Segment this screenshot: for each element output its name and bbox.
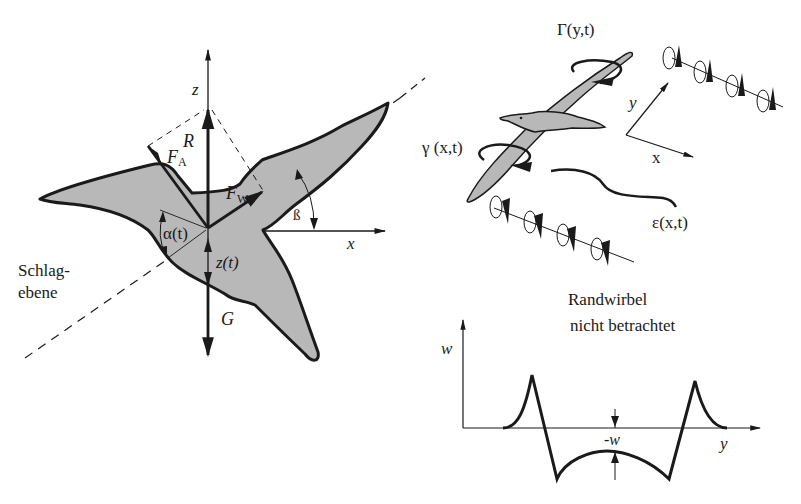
stroke-plane-label-line2: ebene [18,283,58,302]
vortex-3 [726,73,745,97]
dimension-arrow-up [611,452,619,463]
dimension-arrow-down [611,416,619,427]
downwash-distribution-plot: Randwirbel nicht betrachtet w y -w [441,290,760,480]
y-axis-label: y [718,434,728,453]
resultant-label: R [182,131,194,151]
chord-circulation-label: γ (x,t) [421,138,463,157]
z-axis-label: z [191,80,199,99]
left-bird-force-diagram: z x R FA FW α(t) ß z(t) G Schlag- ebene [18,50,400,360]
note-line1: Randwirbel [568,290,648,309]
wake-line [551,170,676,207]
alpha-label: α(t) [163,224,188,243]
bird-eye [520,117,523,120]
albatross-body [500,112,605,132]
alpha-arc-head [160,246,167,258]
vortex-2 [524,211,543,239]
coord-y-label: y [627,93,637,112]
right-vortex-model: Γ(y,t) γ (x,t) ε(x,t) y x [400,20,783,266]
stroke-plane-line-continuation [400,78,425,98]
bound-circulation-label: Γ(y,t) [557,20,595,39]
vortex-line [672,58,783,107]
downwash-value-label: -w [604,431,620,448]
vortex-line [494,208,634,262]
coord-x-label: x [652,148,661,167]
vortex-4 [591,238,610,266]
construction-line [148,110,204,146]
stroke-plane-label-line1: Schlag- [18,261,70,280]
note-line2: nicht betrachtet [570,316,676,335]
beta-arc-head [310,218,318,230]
lower-trailing-vortices [490,196,634,266]
vortex-3 [557,224,576,252]
weight-label: G [221,309,234,329]
vortex-2 [694,59,713,83]
figure-canvas: z x R FA FW α(t) ß z(t) G Schlag- ebene [0,0,801,504]
vortex-1 [663,45,682,69]
x-axis-label: x [346,234,355,253]
heave-label: z(t) [215,253,239,272]
upper-trailing-vortices [663,45,783,112]
construction-line [212,110,264,192]
wake-vorticity-label: ε(x,t) [652,213,688,232]
beta-label: ß [293,207,301,223]
w-axis-label: w [441,339,453,358]
